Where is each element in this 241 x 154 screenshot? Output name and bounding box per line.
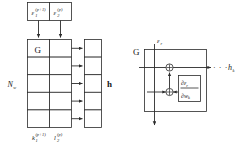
hk-output-label: h k — [228, 63, 236, 73]
hk-output-base: h — [228, 63, 232, 72]
epsilon-input-label: ε r — [157, 37, 163, 46]
grid-to-output-arrows — [72, 48, 83, 118]
diagram-svg: ε 1 (p+1) ε 2 (p) G — [0, 0, 241, 154]
output-label-2-sub: 2 — [57, 138, 60, 143]
row-count-label-sub: w — [13, 85, 16, 90]
g-block-label: G — [133, 47, 140, 57]
figure-canvas: ε 1 (p+1) ε 2 (p) G — [0, 0, 241, 154]
row-count-label: N w — [7, 80, 17, 90]
output-label-2: l 2 (p) — [54, 132, 63, 144]
epsilon-input-base: ε — [157, 37, 160, 44]
output-label-1-sup: (p+1) — [35, 132, 46, 137]
upper-sum-node — [166, 64, 173, 71]
derivative-box: ∂εr ∂wk — [179, 76, 201, 102]
input-label-2-sup: (p) — [57, 7, 63, 12]
output-label-1-sub: 1 — [35, 138, 37, 143]
input-label-1-base: ε — [32, 9, 35, 16]
input-label-2-base: ε — [54, 9, 57, 16]
output-label-2-sup: (p) — [57, 132, 63, 137]
input-label-1-sub: 1 — [35, 13, 37, 18]
epsilon-input-sub: r — [161, 41, 163, 46]
input-label-1-sup: (p+1) — [35, 7, 46, 12]
lower-sum-node — [166, 88, 173, 95]
output-column-label: h — [107, 79, 112, 89]
output-column — [85, 40, 102, 128]
grid-cell-g-label: G — [35, 45, 42, 55]
output-label-1: k 1 (p+1) — [32, 132, 46, 144]
hk-output-sub: k — [233, 68, 236, 73]
output-ellipsis: · · · — [213, 63, 228, 72]
output-label-2-base: l — [54, 134, 56, 141]
